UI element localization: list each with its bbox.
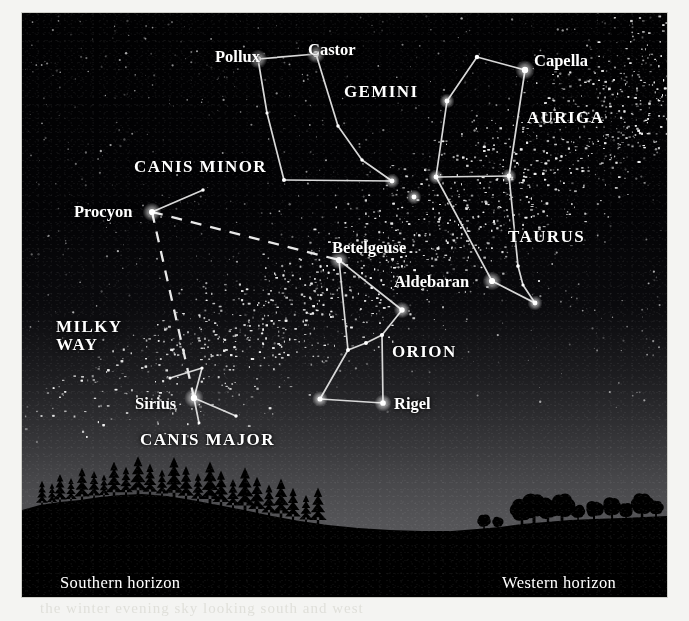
film-grain-overlay xyxy=(22,13,667,597)
star-chart-plate: PolluxCastorCapellaProcyonBetelgeuseAlde… xyxy=(22,13,667,597)
star-chart-page: PolluxCastorCapellaProcyonBetelgeuseAlde… xyxy=(0,0,689,621)
page-bleed-through-text: the winter evening sky looking south and… xyxy=(40,600,660,620)
